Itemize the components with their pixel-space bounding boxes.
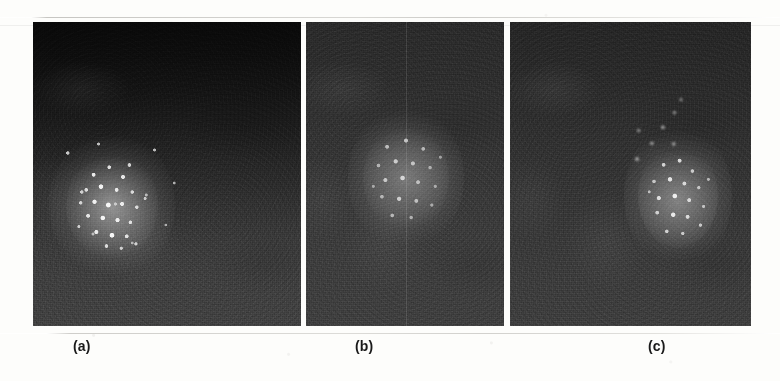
scan-rule-top xyxy=(0,17,780,18)
cluster-c-dots xyxy=(638,144,718,248)
diffuse-speckle-cluster-b xyxy=(363,126,449,230)
panel-caption-c: (c) xyxy=(648,338,666,354)
offset-speckle-cluster-c xyxy=(638,144,718,248)
scan-rule-bottom xyxy=(0,333,780,334)
image-panel-a[interactable] xyxy=(33,22,301,326)
panel-caption-b: (b) xyxy=(355,338,373,354)
image-panel-b[interactable] xyxy=(306,22,504,326)
cluster-b-dots xyxy=(363,126,449,230)
cluster-a-scatter xyxy=(51,126,191,276)
panel-caption-a: (a) xyxy=(73,338,91,354)
figure-root: (a) (b) (c) xyxy=(0,0,780,381)
image-panel-c[interactable] xyxy=(510,22,751,326)
